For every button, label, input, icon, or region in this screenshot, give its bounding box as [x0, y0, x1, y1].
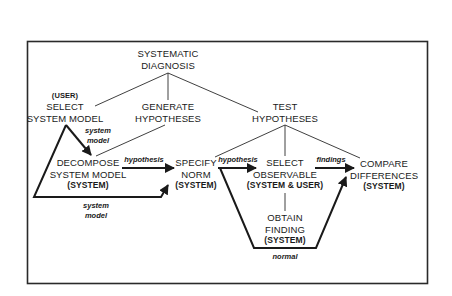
diagram-canvas	[0, 0, 452, 296]
node-text: COMPARE	[350, 158, 418, 170]
edge-label-findings: findings	[316, 155, 345, 165]
node-text: SYSTEM MODEL	[50, 169, 127, 181]
node-text: NORM	[175, 169, 216, 181]
node-text: SELECT	[247, 157, 324, 169]
edge-label-hypothesis-2: hypothesis	[218, 155, 258, 165]
node-generate-hypotheses: GENERATE HYPOTHESES	[135, 101, 201, 124]
node-actor: (USER)	[27, 91, 104, 101]
edge-label-system-model-top: system model	[85, 126, 111, 146]
node-actor: (SYSTEM)	[264, 235, 305, 247]
node-text: OBSERVABLE	[247, 169, 324, 181]
node-systematic-diagnosis: SYSTEMATIC DIAGNOSIS	[138, 48, 199, 71]
node-text: SELECT	[27, 101, 104, 113]
tree-line-test-specify	[215, 125, 285, 157]
node-text: SPECIFY	[175, 157, 216, 169]
node-text: TEST	[252, 101, 318, 113]
node-actor: (SYSTEM & USER)	[247, 180, 324, 192]
node-text: DECOMPOSE	[50, 157, 127, 169]
node-text: OBTAIN	[264, 212, 305, 224]
edge-label-system-model-bottom: system model	[83, 201, 109, 221]
node-compare-differences: COMPARE DIFFERENCES (SYSTEM)	[350, 158, 418, 193]
node-specify-norm: SPECIFY NORM (SYSTEM)	[175, 157, 216, 192]
edge-text: system	[83, 201, 109, 211]
node-actor: (SYSTEM)	[175, 180, 216, 192]
node-actor: (SYSTEM)	[50, 180, 127, 192]
node-text: DIFFERENCES	[350, 170, 418, 182]
node-text: DIAGNOSIS	[138, 60, 199, 72]
node-text: FINDING	[264, 224, 305, 236]
edge-text: hypothesis	[218, 155, 258, 165]
node-select-observable: SELECT OBSERVABLE (SYSTEM & USER)	[247, 157, 324, 192]
edge-text: findings	[316, 155, 345, 165]
node-text: SYSTEM MODEL	[27, 113, 104, 125]
node-text: HYPOTHESES	[135, 113, 201, 125]
edge-text: hypothesis	[124, 155, 164, 165]
node-text: SYSTEMATIC	[138, 48, 199, 60]
edge-text: normal	[272, 252, 297, 262]
tree-line-test-compare	[285, 125, 360, 158]
node-decompose-system-model: DECOMPOSE SYSTEM MODEL (SYSTEM)	[50, 157, 127, 192]
edge-label-hypothesis-1: hypothesis	[124, 155, 164, 165]
edge-text: model	[85, 136, 111, 146]
node-text: HYPOTHESES	[252, 113, 318, 125]
node-text: GENERATE	[135, 101, 201, 113]
edge-text: system	[85, 126, 111, 136]
node-obtain-finding: OBTAIN FINDING (SYSTEM)	[264, 212, 305, 247]
node-actor: (SYSTEM)	[350, 181, 418, 193]
edge-label-normal: normal	[272, 252, 297, 262]
node-select-system-model: (USER) SELECT SYSTEM MODEL	[27, 91, 104, 124]
node-test-hypotheses: TEST HYPOTHESES	[252, 101, 318, 124]
edge-text: model	[83, 211, 109, 221]
